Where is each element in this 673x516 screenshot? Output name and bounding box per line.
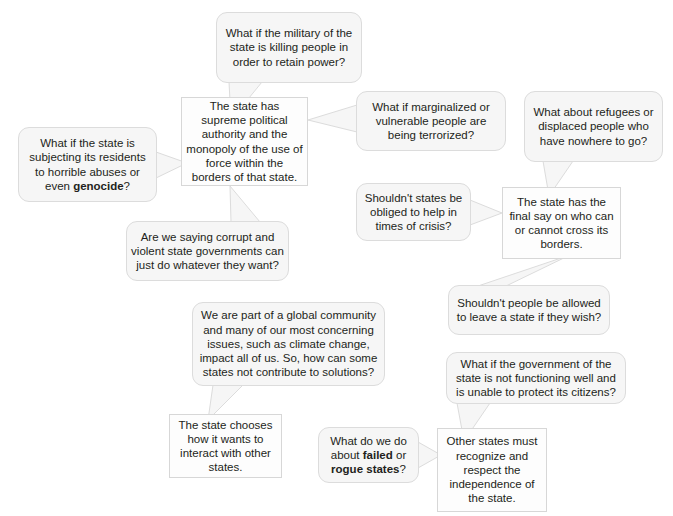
statement-box-state-interacts: The state chooses how it wants to intera…: [169, 414, 282, 478]
genocide-bold: genocide: [73, 180, 123, 192]
question-bubble-global-community-text: We are part of a global community and ma…: [193, 308, 384, 379]
tail-allowed-leave: [475, 255, 570, 287]
question-bubble-failed-rogue-states-text: What do we do about failed or rogue stat…: [319, 434, 418, 477]
question-bubble-marginalized-terrorized-text: What if marginalized or vulnerable peopl…: [357, 100, 505, 143]
question-bubble-obliged-help-crisis-text: Shouldn't states be obliged to help in t…: [357, 191, 470, 234]
statement-box-state-recognition: Other states must recognize and respect …: [437, 428, 547, 512]
question-bubble-government-not-functioning-text: What if the government of the state is n…: [447, 357, 625, 400]
question-bubble-global-community: We are part of a global community and ma…: [192, 302, 385, 386]
question-bubble-military-killing: What if the military of the state is kil…: [216, 12, 362, 83]
genocide-text-after: ?: [124, 180, 130, 192]
statement-box-state-supreme-authority: The state has supreme political authorit…: [181, 97, 308, 186]
statement-box-state-borders-text: The state has the final say on who can o…: [503, 195, 620, 252]
diagram-canvas: The state has supreme political authorit…: [0, 0, 673, 516]
tail-obliged: [470, 200, 502, 225]
question-bubble-marginalized-terrorized: What if marginalized or vulnerable peopl…: [356, 91, 506, 151]
statement-box-state-interacts-text: The state chooses how it wants to intera…: [170, 418, 281, 475]
question-bubble-horrible-abuses-genocide-text: What if the state is subjecting its resi…: [19, 136, 156, 193]
question-bubble-horrible-abuses-genocide: What if the state is subjecting its resi…: [18, 127, 157, 202]
tail-corrupt: [230, 186, 260, 222]
question-bubble-corrupt-violent-governments: Are we saying corrupt and violent state …: [126, 221, 289, 281]
failed-bold: failed: [363, 449, 393, 461]
failed-text-mid: or: [393, 449, 406, 461]
question-bubble-refugees-displaced-text: What about refugees or displaced people …: [525, 105, 662, 148]
question-bubble-obliged-help-crisis: Shouldn't states be obliged to help in t…: [356, 183, 471, 241]
statement-box-state-recognition-text: Other states must recognize and respect …: [438, 434, 546, 505]
question-bubble-corrupt-violent-governments-text: Are we saying corrupt and violent state …: [127, 230, 288, 273]
statement-box-state-supreme-authority-text: The state has supreme political authorit…: [182, 99, 307, 185]
tail-marginalized: [308, 105, 357, 132]
statement-box-state-borders: The state has the final say on who can o…: [502, 187, 621, 259]
question-bubble-refugees-displaced: What about refugees or displaced people …: [524, 91, 663, 162]
question-bubble-military-killing-text: What if the military of the state is kil…: [217, 26, 361, 69]
rogue-states-bold: rogue states: [331, 463, 399, 475]
question-bubble-government-not-functioning: What if the government of the state is n…: [446, 352, 626, 404]
question-bubble-allowed-to-leave-text: Shouldn't people be allowed to leave a s…: [449, 296, 609, 325]
failed-text-after: ?: [399, 463, 405, 475]
question-bubble-failed-rogue-states: What do we do about failed or rogue stat…: [318, 427, 419, 483]
question-bubble-allowed-to-leave: Shouldn't people be allowed to leave a s…: [448, 285, 610, 335]
